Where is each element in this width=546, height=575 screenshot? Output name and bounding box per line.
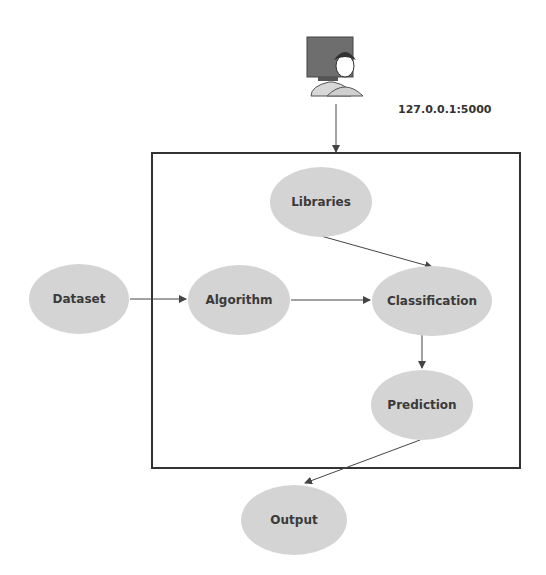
node-output: Output [241, 485, 347, 555]
node-classification: Classification [372, 266, 492, 336]
node-prediction-label: Prediction [387, 398, 456, 412]
node-dataset: Dataset [29, 264, 129, 334]
server-address-label: 127.0.0.1:5000 [398, 103, 491, 116]
node-output-label: Output [270, 513, 317, 527]
edge-prediction-to-output [305, 440, 420, 483]
node-classification-label: Classification [387, 294, 477, 308]
node-libraries-label: Libraries [291, 195, 351, 209]
node-libraries: Libraries [270, 167, 372, 237]
edge-libraries-to-classification [321, 236, 432, 267]
node-dataset-label: Dataset [53, 292, 106, 306]
user-computer-icon [307, 37, 363, 96]
node-algorithm-label: Algorithm [205, 293, 272, 307]
node-prediction: Prediction [371, 370, 473, 440]
node-algorithm: Algorithm [188, 265, 290, 335]
